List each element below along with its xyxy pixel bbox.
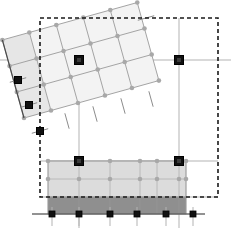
band-node-dot (155, 159, 160, 164)
band-node-dot (77, 177, 82, 182)
handle-edge-middle[interactable] (26, 102, 33, 109)
mesh-node-dot (49, 108, 54, 113)
mesh-node-dot (108, 8, 113, 13)
band-node-dot (138, 159, 143, 164)
mesh-node-dot (103, 93, 108, 98)
mesh-node-dot (135, 0, 140, 5)
band-node-dot (108, 177, 113, 182)
mesh-node-dot (95, 67, 100, 72)
band-node-dot (138, 177, 143, 182)
baseline-handle-6[interactable] (190, 211, 196, 217)
mesh-node-dot (88, 41, 93, 46)
mesh-node-dot (76, 101, 81, 106)
mesh-node-dot (68, 75, 73, 80)
mesh-node-dot (130, 86, 135, 91)
mesh-node-dot (142, 26, 147, 31)
mesh-node-dot (61, 49, 66, 54)
handle-mesh-top-right-inner (177, 58, 181, 62)
band-node-dot (46, 177, 51, 182)
handle-edge-lower[interactable] (37, 128, 44, 135)
mesh-node-dot (27, 30, 32, 35)
baseline-handle-5[interactable] (163, 211, 169, 217)
band-rectangles[interactable] (48, 161, 186, 214)
band-node-dot (177, 177, 182, 182)
handle-band-top-right-inner (177, 159, 181, 163)
baseline-handle-4[interactable] (134, 211, 140, 217)
geometry-diagram (0, 0, 231, 239)
mesh-node-dot (34, 56, 39, 61)
baseline-handle-1[interactable] (49, 211, 55, 217)
baseline-handle-3[interactable] (107, 211, 113, 217)
mesh-node-dot (122, 60, 127, 65)
baseline-handle-2[interactable] (76, 211, 82, 217)
mesh-node-dot (157, 78, 162, 83)
mesh-node-dot (149, 52, 154, 57)
band-node-dot (46, 159, 51, 164)
diagram-canvas: Mesh Transform Overlay (0, 0, 231, 239)
band-node-dot (184, 177, 189, 182)
band-node-dot (155, 177, 160, 182)
mesh-node-dot (41, 82, 46, 87)
band-node-dot (184, 159, 189, 164)
handle-edge-upper[interactable] (15, 77, 22, 84)
handle-band-top-left-inner (77, 159, 81, 163)
mesh-node-dot (54, 23, 59, 28)
handle-mesh-top-left-inner (77, 58, 81, 62)
band-node-dot (108, 159, 113, 164)
mesh-node-dot (115, 34, 120, 39)
